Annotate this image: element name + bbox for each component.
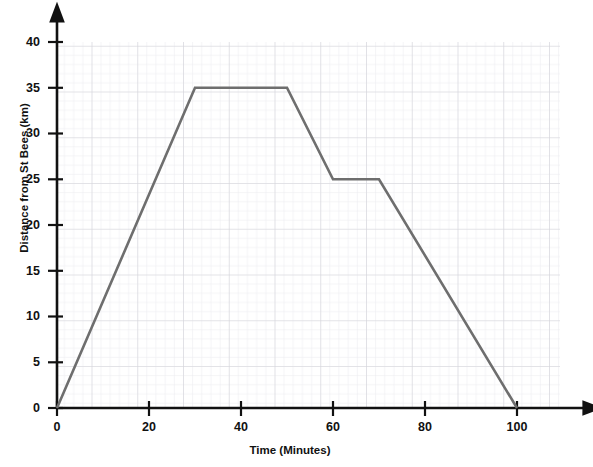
x-tick-label-60: 60 [311,420,355,434]
x-tick-label-20: 20 [127,420,171,434]
x-tick-label-0: 0 [35,420,79,434]
chart-canvas [0,0,593,467]
x-tick-label-100: 100 [495,420,539,434]
x-tick-label-40: 40 [219,420,263,434]
y-tick-label-0: 0 [6,401,40,415]
x-tick-label-80: 80 [403,420,447,434]
chart-figure: 0 5 10 15 20 25 30 35 40 0 20 40 60 80 1… [0,0,593,467]
y-tick-label-5: 5 [6,355,40,369]
y-axis-title: Distance from St Bees (km) [18,68,30,288]
y-tick-label-10: 10 [6,309,40,323]
y-tick-label-40: 40 [6,35,40,49]
x-axis-title: Time (Minutes) [180,444,400,456]
